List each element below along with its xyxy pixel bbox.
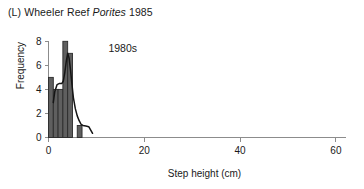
x-tick-label: 40 [235, 145, 247, 156]
x-tick-label: 20 [139, 145, 151, 156]
histogram-bar [49, 77, 54, 137]
y-axis-ticks: 02468 [36, 36, 49, 143]
y-tick-label: 0 [36, 132, 42, 143]
x-axis-ticks: 0204060 [46, 138, 342, 156]
x-tick-label: 60 [330, 145, 342, 156]
histogram-bar [77, 125, 82, 137]
histogram-bars [49, 41, 83, 137]
y-tick-label: 4 [36, 84, 42, 95]
y-tick-label: 2 [36, 108, 42, 119]
histogram-bar [58, 89, 63, 137]
decade-annotation: 1980s [108, 42, 137, 54]
y-tick-label: 8 [36, 36, 42, 47]
figure-panel: (L) Wheeler Reef Porites 1985 Frequency … [0, 0, 364, 189]
chart-canvas: 02468 0204060 1980s [0, 0, 364, 189]
y-tick-label: 6 [36, 60, 42, 71]
x-tick-label: 0 [46, 145, 52, 156]
